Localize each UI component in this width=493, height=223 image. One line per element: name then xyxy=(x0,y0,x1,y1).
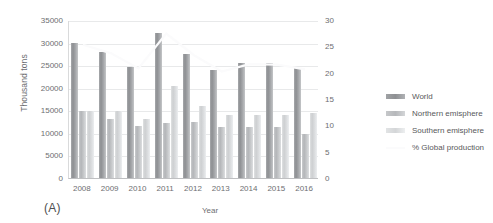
legend-item: % Global production xyxy=(386,139,484,156)
y-axis-tick-label: 30000 xyxy=(22,40,63,48)
plot-area xyxy=(68,21,318,179)
legend-swatch xyxy=(386,147,405,149)
x-axis-title: Year xyxy=(150,206,270,215)
y2-axis-tick-label: 5 xyxy=(325,149,347,157)
y-axis-tick-label: 20000 xyxy=(22,85,63,93)
y2-axis-tick-label: 30 xyxy=(325,17,347,25)
legend-label: World xyxy=(412,92,433,101)
legend-label: % Global production xyxy=(412,143,484,152)
y-axis-tick-label: 0 xyxy=(22,175,63,183)
y-axis-tick-label: 5000 xyxy=(22,152,63,160)
legend-swatch xyxy=(386,94,405,99)
y-axis-tick-label: 25000 xyxy=(22,62,63,70)
y2-axis-tick-label: 10 xyxy=(325,122,347,130)
legend-label: Northern emisphere xyxy=(412,109,483,118)
percent-global-production-line xyxy=(69,21,319,179)
y-axis-tick-label: 10000 xyxy=(22,130,63,138)
y2-axis-tick-label: 15 xyxy=(325,96,347,104)
legend-item: World xyxy=(386,88,484,105)
y2-axis-tick-label: 25 xyxy=(325,43,347,51)
panel-label: (A) xyxy=(44,201,61,215)
x-axis-tick-label: 2016 xyxy=(287,184,321,193)
y-axis-tick-label: 35000 xyxy=(22,17,63,25)
y2-axis-tick-label: 0 xyxy=(325,175,347,183)
legend-label: Southern emisphere xyxy=(412,126,484,135)
legend-swatch xyxy=(386,128,405,133)
y2-axis-tick-label: 20 xyxy=(325,70,347,78)
y-axis-tick-label: 15000 xyxy=(22,107,63,115)
legend-swatch xyxy=(386,111,405,116)
legend-item: Southern emisphere xyxy=(386,122,484,139)
legend-item: Northern emisphere xyxy=(386,105,484,122)
legend: WorldNorthern emisphereSouthern emispher… xyxy=(386,88,484,156)
chart-root: Thousand tons Year (A) 05000100001500020… xyxy=(0,0,493,223)
